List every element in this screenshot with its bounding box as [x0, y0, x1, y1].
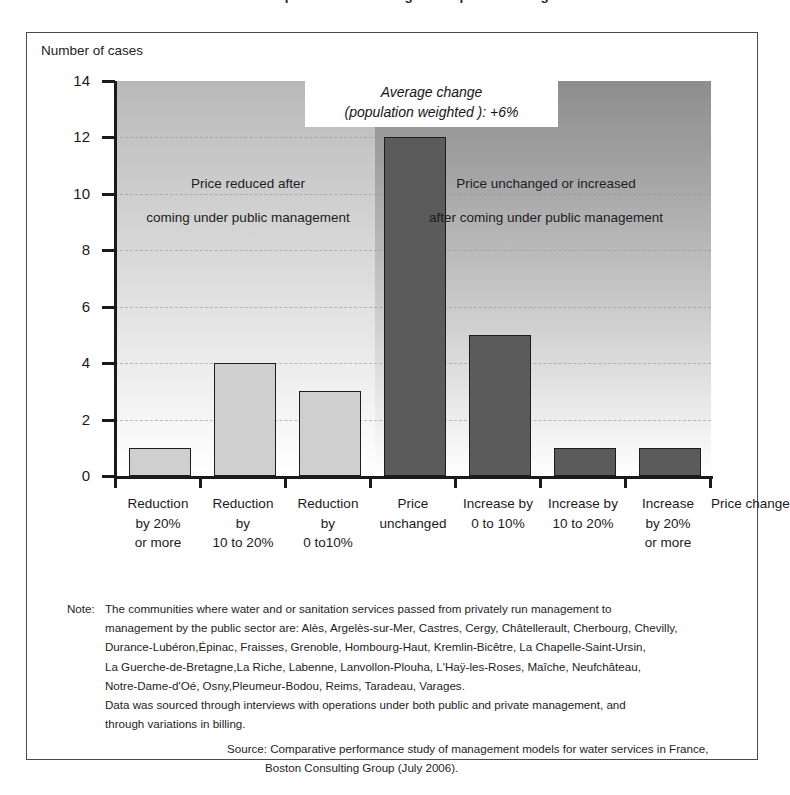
- x-label-line: unchanged: [368, 514, 458, 534]
- x-label-line: Reduction: [113, 494, 203, 514]
- y-tick-label-2: 2: [82, 410, 90, 427]
- note-line-7: through variations in billing.: [105, 714, 747, 733]
- annotation-price-reduced-line1: Price reduced after: [123, 167, 373, 201]
- x-label-reduction-by-10-to-20: Reduction by 10 to 20%: [198, 494, 288, 553]
- x-label-line: or more: [113, 533, 203, 553]
- annotation-price-increased: Price unchanged or increased after comin…: [383, 167, 709, 236]
- x-label-line: 0 to10%: [283, 533, 373, 553]
- y-tick-label-8: 8: [82, 241, 90, 258]
- y-axis-caption: Number of cases: [41, 43, 143, 58]
- x-label-line: by: [283, 514, 373, 534]
- x-label-line: 0 to 10%: [453, 514, 543, 534]
- bar-increase-by-10-to-20[interactable]: [554, 448, 616, 476]
- annotation-price-increased-line2: after coming under public management: [383, 201, 709, 235]
- x-tick-4: [454, 478, 457, 488]
- source-line-2: Boston Consulting Group (July 2006).: [265, 758, 747, 777]
- x-tick-1: [199, 478, 202, 488]
- note-line-5: Notre-Dame-d'Oé, Osny,Pleumeur-Bodou, Re…: [105, 676, 747, 695]
- x-label-line: Price: [368, 494, 458, 514]
- y-tick-label-10: 10: [73, 184, 90, 201]
- average-change-line2: (population weighted ): +6%: [345, 103, 519, 123]
- x-label-reduction-by-20-or-more: Reduction by 20% or more: [113, 494, 203, 553]
- x-axis-end-cap-right: [709, 476, 712, 488]
- x-label-line: 10 to 20%: [538, 514, 628, 534]
- x-label-line: Reduction: [198, 494, 288, 514]
- x-tick-2: [284, 478, 287, 488]
- x-label-reduction-by-0-to-10: Reduction by 0 to10%: [283, 494, 373, 553]
- x-label-line: Increase: [623, 494, 713, 514]
- y-tick-label-12: 12: [73, 128, 90, 145]
- note-body: The communities where water and or sanit…: [105, 599, 747, 734]
- bar-reduction-by-20-or-more[interactable]: [129, 448, 191, 476]
- figure-frame: Number of cases Price reduced after comi…: [26, 32, 758, 760]
- bar-increase-by-20-or-more[interactable]: [639, 448, 701, 476]
- y-axis-line: [114, 81, 117, 476]
- x-label-line: by: [198, 514, 288, 534]
- source-line-1: Source: Comparative performance study of…: [227, 739, 747, 758]
- note-line-3: Durance-Lubéron,Épinac, Fraisses, Grenob…: [105, 637, 747, 656]
- y-tick-label-6: 6: [82, 297, 90, 314]
- annotation-price-increased-line1: Price unchanged or increased: [383, 167, 709, 201]
- note-line-2: management by the public sector are: Alè…: [105, 618, 747, 637]
- y-tick-8: 8: [102, 249, 115, 252]
- y-tick-label-14: 14: [73, 72, 90, 89]
- average-change-callout: Average change (population weighted ): +…: [305, 79, 558, 127]
- y-tick-label-0: 0: [82, 467, 90, 484]
- x-axis-caption: Price changes: [711, 494, 790, 533]
- x-axis-end-cap-left: [114, 476, 117, 488]
- x-label-increase-by-0-to-10: Increase by 0 to 10%: [453, 494, 543, 533]
- x-tick-5: [539, 478, 542, 488]
- x-label-line: Reduction: [283, 494, 373, 514]
- x-label-line: Increase by: [453, 494, 543, 514]
- figure-title: Evolution of prices after coming under p…: [0, 0, 790, 6]
- y-tick-2: 2: [102, 419, 115, 422]
- x-axis-tick-labels: Reduction by 20% or more Reduction by 10…: [115, 494, 755, 564]
- x-label-line: Increase by: [538, 494, 628, 514]
- x-axis-caption-line1: Price changes: [711, 494, 790, 514]
- note-line-1: The communities where water and or sanit…: [105, 599, 747, 618]
- y-tick-14: 14: [102, 80, 115, 83]
- bar-reduction-by-10-to-20[interactable]: [214, 363, 276, 476]
- y-tick-10: 10: [102, 193, 115, 196]
- average-change-line1: Average change: [381, 83, 483, 103]
- note-line-4: La Guerche-de-Bretagne,La Riche, Labenne…: [105, 657, 747, 676]
- y-tick-6: 6: [102, 306, 115, 309]
- annotation-price-reduced: Price reduced after coming under public …: [123, 167, 373, 236]
- x-label-line: or more: [623, 533, 713, 553]
- x-label-line: by 20%: [113, 514, 203, 534]
- x-label-increase-by-20-or-more: Increase by 20% or more: [623, 494, 713, 553]
- x-tick-6: [624, 478, 627, 488]
- bar-increase-by-0-to-10[interactable]: [469, 335, 531, 476]
- figure-page: Evolution of prices after coming under p…: [0, 0, 790, 795]
- plot-area: Price reduced after coming under public …: [115, 81, 711, 476]
- x-tick-3: [369, 478, 372, 488]
- x-label-line: 10 to 20%: [198, 533, 288, 553]
- y-tick-4: 4: [102, 362, 115, 365]
- note-block: Note: The communities where water and or…: [67, 599, 747, 734]
- x-label-increase-by-10-to-20: Increase by 10 to 20%: [538, 494, 628, 533]
- x-label-price-unchanged: Price unchanged: [368, 494, 458, 533]
- x-label-line: by 20%: [623, 514, 713, 534]
- y-tick-label-4: 4: [82, 354, 90, 371]
- y-tick-12: 12: [102, 136, 115, 139]
- source-block: Source: Comparative performance study of…: [227, 739, 747, 777]
- note-label: Note:: [67, 599, 95, 618]
- note-line-6: Data was sourced through interviews with…: [105, 695, 747, 714]
- bar-reduction-by-0-to-10[interactable]: [299, 391, 361, 476]
- annotation-price-reduced-line2: coming under public management: [123, 201, 373, 235]
